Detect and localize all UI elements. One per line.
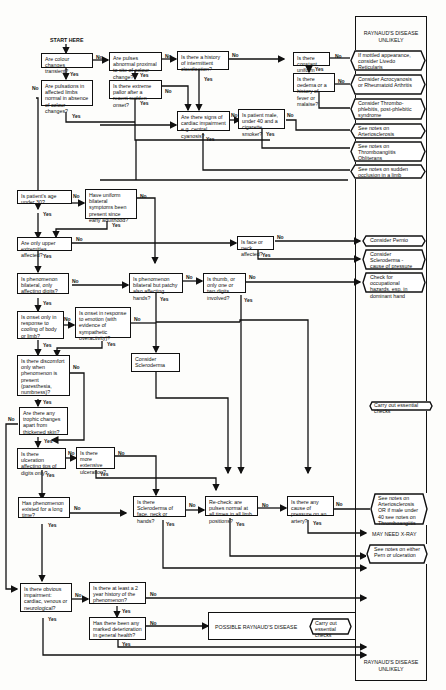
label-yes: Yes xyxy=(160,296,169,302)
question-cardiac-impairment[interactable]: Are there signs of cardiac impairment e.… xyxy=(177,111,230,131)
question-age-under-30[interactable]: Is patient's age under 30? xyxy=(17,190,72,204)
question-constant-cyanosis[interactable]: Is there constant uniform cyanosis? xyxy=(293,52,330,66)
label-no: No xyxy=(165,53,172,59)
outcome-carry-out-checks-final[interactable]: Carry out essential checks xyxy=(309,618,352,635)
question-thumb-digits[interactable]: Is thumb, or only one or two digits invo… xyxy=(203,273,246,293)
start-label: START HERE xyxy=(50,37,83,43)
label-no: No xyxy=(74,505,81,511)
label-yes: Yes xyxy=(43,253,52,259)
label-yes: Yes xyxy=(122,641,131,647)
question-obvious-impairment[interactable]: Is there obvious impairment: cardiac, ve… xyxy=(20,583,72,612)
question-intermittent-claudication[interactable]: Is there a history of intermittent claud… xyxy=(177,51,229,70)
label-yes: Yes xyxy=(140,72,149,78)
label-yes: Yes xyxy=(43,342,52,348)
question-pulsations-normal[interactable]: Are pulsations in affected limbs normal … xyxy=(41,80,93,106)
label-no: No xyxy=(75,592,82,598)
label-no: No xyxy=(165,88,172,94)
consider-scleroderma-box[interactable]: Consider Scleroderma xyxy=(131,353,180,372)
question-discomfort-paresthesia[interactable]: Is there discomfort only when phenomenon… xyxy=(17,355,70,396)
question-onset-cooling[interactable]: Is onset only in response to cooling of … xyxy=(17,311,64,339)
label-no: No xyxy=(150,620,157,626)
label-yes: Yes xyxy=(46,472,55,478)
label-yes: Yes xyxy=(204,76,213,82)
label-yes: Yes xyxy=(266,131,275,137)
question-long-time[interactable]: Has phenomenon existed for a long time? xyxy=(18,497,70,518)
label-yes: Yes xyxy=(70,71,79,77)
label-no: No xyxy=(231,112,238,118)
label-no: No xyxy=(336,501,343,507)
question-ulceration-tips[interactable]: Is there ulceration affecting tips of di… xyxy=(17,448,66,469)
label-yes: Yes xyxy=(44,438,53,444)
possible-raynauds-label: POSSIBLE RAYNAUD'S DISEASE xyxy=(215,624,297,630)
label-yes: Yes xyxy=(107,341,116,347)
label-no: No xyxy=(8,416,15,422)
question-extreme-pallor[interactable]: Is there extreme pallor after a recent s… xyxy=(109,80,162,99)
outcome-pernio[interactable]: Consider Pernio xyxy=(362,235,426,247)
question-upper-extremities[interactable]: Are only upper extremities affected? xyxy=(17,237,72,251)
panel-top-title: RAYNAUD'S DISEASE UNLIKELY xyxy=(358,30,424,43)
question-onset-emotion[interactable]: Is onset in response to emotion (with ev… xyxy=(75,307,131,338)
label-yes: Yes xyxy=(122,608,131,614)
may-need-xray-label: MAY NEED X-RAY xyxy=(372,531,416,537)
label-yes: Yes xyxy=(166,521,175,527)
label-no: No xyxy=(189,502,196,508)
label-yes: Yes xyxy=(313,520,322,526)
label-yes: Yes xyxy=(140,100,149,106)
label-no: No xyxy=(335,53,342,59)
label-no: No xyxy=(76,236,83,242)
question-scleroderma-face[interactable]: Is there Scleroderma of face, neck or ha… xyxy=(133,496,186,517)
outcome-thromboangiitis[interactable]: See notes on Thromboangiitis Obliterans xyxy=(350,141,426,162)
label-no: No xyxy=(287,112,294,118)
label-no: No xyxy=(73,193,80,199)
label-no: No xyxy=(338,78,345,84)
label-no: No xyxy=(72,278,79,284)
outcome-livedo-reticularis[interactable]: If mottled appearance, consider Livedo R… xyxy=(350,50,426,71)
question-face-neck[interactable]: Is face or neck affected? xyxy=(237,236,274,250)
label-yes: Yes xyxy=(112,222,121,228)
label-yes: Yes xyxy=(100,471,109,477)
label-no: No xyxy=(134,316,141,322)
label-yes: Yes xyxy=(48,522,57,528)
outcome-pern-ulceration[interactable]: See notes on either Pern or ulceration xyxy=(366,544,428,564)
outcome-thrombophlebitis[interactable]: Consider Thrombo-phlebitis, post-phlebit… xyxy=(350,98,426,120)
label-yes: Yes xyxy=(206,136,215,142)
label-yes: Yes xyxy=(72,113,81,119)
label-yes: Yes xyxy=(48,616,57,622)
question-recheck-pulses[interactable]: Re-check: are pulses normal at all times… xyxy=(205,496,258,516)
question-colour-changes-transient[interactable]: Are colour changes transient? xyxy=(41,53,93,68)
outcome-sudden-occlusion[interactable]: See notes on sudden occlusion in a limb xyxy=(350,164,426,179)
question-pulses-abnormal[interactable]: Are pulses abnormal proximal to site of … xyxy=(109,52,162,71)
question-oedema-fever[interactable]: Is there oedema or a history of fever or… xyxy=(293,73,335,92)
question-trophic-changes[interactable]: Are there any trophic changes apart from… xyxy=(19,407,68,435)
outcome-occupational-hazards[interactable]: Check for occupational hazards, esp. in … xyxy=(362,272,426,293)
label-yes: Yes xyxy=(43,300,52,306)
question-extensive-ulceration[interactable]: Is there more extensive ulceration? xyxy=(76,447,115,469)
question-male-smoker[interactable]: Is patient male, under 40 and a cigarett… xyxy=(238,109,285,129)
label-no: No xyxy=(73,364,80,370)
question-bilateral-digits[interactable]: Is phenomenon bilateral, only affecting … xyxy=(17,273,69,294)
label-no: No xyxy=(32,85,39,91)
question-two-year-history[interactable]: Is there at least a 2 year history of th… xyxy=(89,582,146,604)
outcome-arteriosclerosis[interactable]: See notes on Arteriosclerosis xyxy=(350,123,426,139)
label-yes: Yes xyxy=(244,297,253,303)
question-deterioration-health[interactable]: Has there been any marked deterioration … xyxy=(89,617,146,640)
label-yes: Yes xyxy=(315,66,324,72)
outcome-carry-out-checks[interactable]: Carry out essential checks xyxy=(369,401,433,411)
label-no: No xyxy=(118,450,125,456)
outcome-scleroderma-pressure[interactable]: Consider Scleroderma - cause of pressure… xyxy=(362,249,426,270)
question-pressure-artery[interactable]: Is there any cause of pressure on an art… xyxy=(287,496,334,516)
label-no: No xyxy=(96,54,103,60)
label-no: No xyxy=(232,52,239,58)
outcome-acrocyanosis[interactable]: Consider Acrocyanosis or Rheumatoid Arth… xyxy=(350,74,426,95)
label-no: No xyxy=(68,450,75,456)
label-no: No xyxy=(186,274,193,280)
outcome-arteriosclerosis-or-thromboangiitis[interactable]: See notes on Arteriosclerosis OR if male… xyxy=(370,493,428,525)
question-uniform-bilateral[interactable]: Have uniform bilateral symptoms been pre… xyxy=(85,189,137,219)
label-no: No xyxy=(150,591,157,597)
label-no: No xyxy=(64,316,71,322)
question-bilateral-patchy[interactable]: Is phenomenon bilateral but patchy also … xyxy=(129,273,183,293)
label-no: No xyxy=(249,274,256,280)
label-yes: Yes xyxy=(262,252,271,258)
label-no: No xyxy=(277,234,284,240)
label-yes: Yes xyxy=(43,399,52,405)
